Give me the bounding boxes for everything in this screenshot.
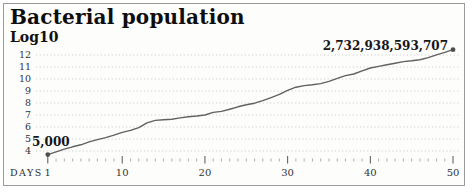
y-tick-label: 11 [19,61,31,72]
x-tick-label: 1 [45,167,51,178]
bacterial-population-chart: Bacterial population Log10 4567891011121… [0,0,472,192]
y-tick-label: 5 [25,133,31,144]
x-tick-label: 40 [364,167,377,178]
x-tick-label: 10 [116,167,129,178]
y-tick-label: 10 [19,73,31,84]
line-plot-canvas: 45678910111211020304050 [0,0,472,192]
x-tick-label: 30 [281,167,294,178]
y-tick-label: 4 [25,145,31,156]
y-tick-label: 8 [25,97,31,108]
start-point-dot [45,152,50,157]
y-tick-label: 9 [25,85,31,96]
x-tick-label: 50 [447,167,460,178]
y-tick-label: 7 [25,109,31,120]
y-tick-label: 12 [19,49,31,60]
x-axis-title: DAYS [10,167,43,178]
end-point-dot [451,47,456,52]
x-tick-label: 20 [199,167,212,178]
start-value-annotation: 5,000 [32,135,70,149]
end-value-annotation: 2,732,938,593,707 [323,39,448,53]
y-tick-label: 6 [25,121,31,132]
